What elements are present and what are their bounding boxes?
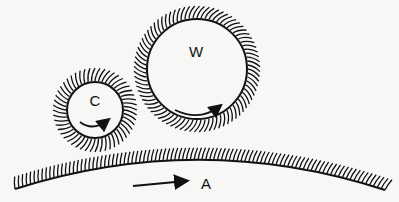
hatch-mark: [54, 165, 55, 178]
hatch-mark: [198, 148, 201, 160]
hatch-mark: [122, 99, 136, 100]
hatch-mark: [148, 30, 154, 43]
roller-c: C: [53, 68, 137, 152]
hatch-mark: [151, 149, 154, 161]
hatch-mark: [214, 148, 218, 160]
hatch-mark: [121, 95, 135, 97]
hatch-mark: [124, 114, 136, 121]
hatch-mark: [155, 149, 158, 161]
hatch-mark: [108, 154, 110, 166]
hatch-mark: [109, 136, 111, 150]
hatch-mark: [80, 71, 82, 85]
hatch-mark: [88, 68, 90, 82]
hatch-mark: [58, 164, 59, 177]
hatch-mark: [221, 148, 225, 160]
surface-motion-arrow: [133, 181, 186, 186]
hatch-mark: [242, 45, 256, 47]
hatch-mark: [128, 152, 130, 164]
roller-w-circle: [147, 19, 247, 119]
hatch-mark: [147, 105, 161, 108]
hatch-mark: [175, 148, 178, 160]
hatch-mark: [158, 113, 171, 119]
hatch-mark: [77, 160, 78, 173]
hatch-mark: [145, 102, 159, 104]
hatch-mark: [209, 118, 213, 131]
hatch-mark: [159, 149, 162, 161]
hatch-mark: [58, 127, 71, 130]
hatch-mark: [223, 113, 224, 127]
hatch-mark: [95, 139, 99, 152]
hatch-mark: [116, 153, 118, 165]
hatch-mark: [142, 99, 156, 101]
hatch-mark: [85, 159, 86, 171]
hatch-mark: [227, 110, 229, 124]
hatch-mark: [38, 170, 39, 183]
surface-a-label: A: [201, 175, 211, 192]
hatch-mark: [91, 68, 95, 81]
hatch-mark: [165, 14, 167, 28]
hatch-mark: [50, 166, 51, 179]
hatch-mark: [135, 81, 148, 85]
diagram-canvas: C W A: [0, 0, 399, 202]
hatch-mark: [158, 19, 161, 33]
hatch-mark: [93, 157, 94, 169]
hatch-mark: [162, 17, 164, 31]
hatch-mark: [229, 149, 233, 161]
hatch-mark: [85, 139, 92, 151]
hatch-mark: [124, 152, 126, 164]
hatch-mark: [210, 148, 214, 160]
hatch-mark: [81, 159, 82, 172]
hatch-mark: [124, 106, 137, 110]
hatch-mark: [138, 91, 152, 93]
hatch-mark: [99, 69, 106, 81]
roller-w-label: W: [189, 43, 204, 60]
hatch-mark: [230, 108, 232, 122]
hatch-mark: [163, 149, 166, 161]
hatch-mark: [238, 37, 252, 39]
hatch-mark: [54, 100, 66, 107]
hatch-mark: [179, 148, 182, 160]
hatch-mark: [73, 161, 74, 173]
hatch-mark: [112, 134, 115, 147]
hatch-mark: [84, 69, 85, 83]
hatch-mark: [75, 73, 78, 86]
hatch-mark: [89, 158, 90, 171]
hatch-mark: [18, 175, 19, 188]
hatch-mark: [119, 90, 132, 93]
hatch-mark: [136, 86, 150, 89]
hatch-mark: [62, 164, 63, 177]
hatch-mark: [26, 173, 27, 186]
hatch-mark: [181, 7, 185, 20]
hatch-mark: [46, 167, 47, 180]
hatch-mark: [100, 138, 102, 152]
hatch-mark: [183, 148, 186, 160]
hatch-mark: [171, 148, 174, 160]
hatch-mark: [136, 151, 138, 163]
hatch-mark: [206, 148, 210, 160]
hatch-mark: [244, 49, 258, 52]
hatch-mark: [105, 137, 106, 151]
hatch-mark: [186, 148, 189, 160]
hatch-mark: [144, 150, 146, 162]
hatch-mark: [177, 8, 180, 22]
hatch-mark: [14, 177, 15, 190]
hatch-mark: [190, 148, 193, 160]
hatch-mark: [237, 149, 241, 161]
hatch-mark: [22, 174, 23, 187]
hatch-mark: [97, 156, 98, 168]
hatch-mark: [53, 110, 66, 114]
hatch-mark: [42, 169, 43, 182]
hatch-mark: [219, 114, 221, 128]
hatch-mark: [69, 162, 70, 175]
hatch-mark: [214, 116, 217, 130]
roller-c-circle: [67, 82, 123, 138]
hatch-mark: [173, 10, 175, 24]
hatch-mark: [246, 53, 259, 57]
hatch-mark: [233, 105, 236, 119]
hatch-mark: [241, 41, 255, 42]
hatch-mark: [218, 148, 222, 160]
hatch-mark: [225, 149, 229, 161]
hatch-mark: [56, 124, 70, 126]
hatch-mark: [101, 156, 102, 169]
hatch-mark: [194, 148, 197, 160]
